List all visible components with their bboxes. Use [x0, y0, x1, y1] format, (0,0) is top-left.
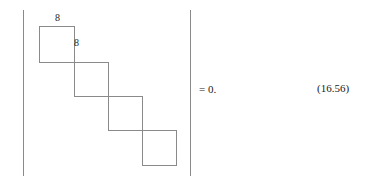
determinant-right-bar — [190, 10, 191, 176]
matrix-entry-label: 8 — [55, 13, 60, 23]
band-square — [142, 130, 177, 166]
band-square — [39, 26, 75, 63]
determinant-figure: 8 8 = 0. (16.56) — [0, 0, 388, 185]
matrix-entry-label: 8 — [74, 38, 79, 48]
equation-number: (16.56) — [317, 82, 349, 94]
band-square — [108, 96, 143, 131]
band-square — [74, 62, 109, 97]
equation-right-hand-side: = 0. — [199, 83, 216, 95]
